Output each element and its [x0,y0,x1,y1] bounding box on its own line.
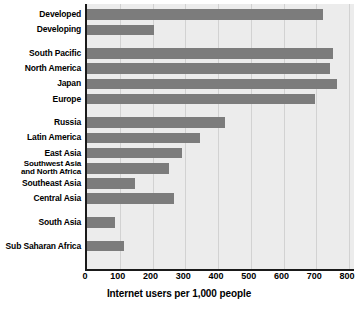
category-label: Latin America [27,133,81,142]
bar [87,163,169,174]
x-axis-ticks: 0100200300400500600700800 [85,271,352,285]
bar [87,9,323,20]
bar-row [87,22,354,37]
category-label: Southwest Asia and North Africa [21,160,81,177]
category-label-row: Europe [0,91,84,106]
bar [87,79,337,90]
x-axis-tick-label: 500 [241,271,256,281]
category-label-row: Southeast Asia [0,176,84,191]
bars-container [87,7,354,254]
x-axis-tick-label: 100 [110,271,125,281]
bar-row [87,130,354,145]
bar [87,241,124,252]
category-label-row: Russia [0,115,84,130]
bar-row [87,91,354,106]
category-label: Europe [53,95,81,104]
plot-area [85,4,354,271]
category-label: South Pacific [29,49,81,58]
x-axis-tick-label: 300 [176,271,191,281]
category-label-row: Latin America [0,130,84,145]
x-axis-tick-label: 800 [339,271,354,281]
category-label: Central Asia [34,194,82,203]
bar-row [87,7,354,22]
bar [87,178,135,189]
bar [87,133,200,144]
group-spacer [87,37,354,46]
x-axis-tick-label: 400 [208,271,223,281]
category-label-row: South Asia [0,215,84,230]
category-label: Sub Saharan Africa [6,242,81,251]
bar-row [87,238,354,253]
bar-row [87,176,354,191]
bar [87,25,154,36]
bar-row [87,161,354,176]
group-spacer [0,230,84,239]
bar [87,193,174,204]
bar [87,217,115,228]
group-spacer [0,37,84,46]
group-spacer [0,107,84,116]
bar [87,63,330,74]
category-label-row: Southwest Asia and North Africa [0,161,84,176]
category-label: Southeast Asia [22,179,81,188]
group-spacer [87,107,354,116]
category-label-row: Developing [0,22,84,37]
category-label: Russia [54,118,81,127]
category-label-row: Japan [0,76,84,91]
bar-row [87,191,354,206]
x-axis-tick-label: 600 [274,271,289,281]
category-label: South Asia [38,218,81,227]
bar [87,148,182,159]
group-spacer [87,206,354,215]
category-label-row: Developed [0,7,84,22]
bar [87,48,333,59]
category-label-row: Sub Saharan Africa [0,238,84,253]
bar-row [87,76,354,91]
bar-row [87,115,354,130]
category-label-column: DevelopedDevelopingSouth PacificNorth Am… [0,7,84,254]
bar-row [87,46,354,61]
bar [87,117,225,128]
category-label: Japan [57,79,81,88]
bar-row [87,61,354,76]
x-axis-title: Internet users per 1,000 people [0,288,358,299]
category-label: East Asia [44,149,81,158]
group-spacer [0,206,84,215]
bar-row [87,146,354,161]
category-label-row: North America [0,61,84,76]
x-axis-tick-label: 700 [307,271,322,281]
category-label: Developing [37,25,81,34]
bar-row [87,215,354,230]
bar-chart: DevelopedDevelopingSouth PacificNorth Am… [0,0,358,309]
category-label-row: South Pacific [0,46,84,61]
x-axis-tick-label: 0 [82,271,87,281]
group-spacer [87,230,354,239]
category-label-row: Central Asia [0,191,84,206]
category-label: North America [25,64,81,73]
category-label: Developed [39,10,81,19]
bar [87,94,315,105]
x-axis-tick-label: 200 [143,271,158,281]
